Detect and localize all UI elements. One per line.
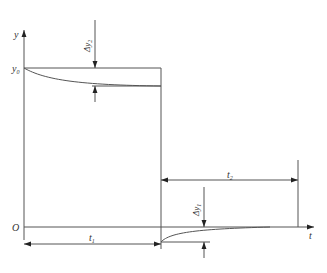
delta-y1-main: Δy: [191, 207, 201, 217]
y0-sub: 0: [16, 69, 19, 75]
svg-text:Δy2: Δy2: [82, 40, 93, 53]
delta-y2-main: Δy: [82, 43, 92, 53]
step-response-diagram: y t O y0 Δy2 Δy1 t1: [0, 0, 327, 273]
svg-text:t2: t2: [227, 169, 233, 181]
high-level-segment: [24, 68, 161, 86]
svg-text:y0: y0: [11, 63, 19, 75]
origin-label: O: [12, 222, 19, 233]
delta-y1-sub: 1: [196, 204, 202, 207]
svg-text:t1: t1: [89, 232, 95, 244]
t1-label: t1: [89, 232, 95, 244]
t2-label: t2: [227, 169, 233, 181]
svg-text:Δy1: Δy1: [191, 204, 202, 217]
low-level-recovery: [161, 227, 270, 242]
delta-y2-label: Δy2: [82, 40, 93, 53]
t2-sub: 2: [230, 175, 233, 181]
t1-sub: 1: [92, 238, 95, 244]
t-axis-label: t: [309, 230, 312, 241]
y0-label: y0: [11, 63, 19, 75]
delta-y2-sub: 2: [87, 40, 93, 43]
delta-y1-label: Δy1: [191, 204, 202, 217]
y-axis-label: y: [13, 29, 19, 40]
